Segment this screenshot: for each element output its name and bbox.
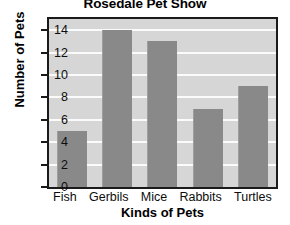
x-tick-label: Turtles [234, 190, 272, 204]
y-tick-label: 12 [28, 46, 68, 60]
y-tick-label: 4 [28, 135, 68, 149]
y-tick-mark [41, 141, 48, 143]
y-tick-label: 14 [28, 23, 68, 37]
y-tick-label: 2 [28, 158, 68, 172]
bar-gerbils [102, 30, 132, 187]
y-tick-label: 8 [28, 90, 68, 104]
y-tick-label: 6 [28, 113, 68, 127]
bar-chart: Rosedale Pet Show Number of Pets 0246810… [0, 0, 290, 225]
x-axis-title: Kinds of Pets [47, 205, 278, 220]
y-tick-mark [41, 96, 48, 98]
x-axis-tick-labels: FishGerbilsMiceRabbitsTurtles [47, 190, 278, 204]
y-tick-mark [41, 29, 48, 31]
plot-area [47, 17, 278, 189]
x-tick-label: Fish [53, 190, 77, 204]
bar-rabbits [193, 109, 223, 187]
bar-mice [147, 41, 177, 187]
y-tick-mark [41, 186, 48, 188]
y-tick-mark [41, 164, 48, 166]
bar-turtles [238, 86, 268, 187]
y-tick-mark [41, 119, 48, 121]
y-tick-mark [41, 74, 48, 76]
x-tick-label: Mice [141, 190, 167, 204]
y-tick-label: 10 [28, 68, 68, 82]
y-axis-title: Number of Pets [12, 0, 27, 135]
x-tick-label: Rabbits [179, 190, 221, 204]
x-tick-label: Gerbils [89, 190, 129, 204]
chart-title: Rosedale Pet Show [0, 0, 290, 11]
bars-group [49, 19, 276, 187]
y-tick-mark [41, 52, 48, 54]
